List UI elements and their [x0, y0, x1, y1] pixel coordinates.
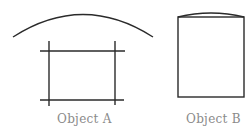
object-a-label: Object A: [57, 112, 112, 126]
object-a-drawing: [13, 15, 153, 107]
object-b-drawing: [178, 13, 244, 97]
object-b-label: Object B: [186, 112, 241, 126]
object-b-rectangle: [178, 17, 244, 97]
object-a-arc: [13, 15, 153, 38]
